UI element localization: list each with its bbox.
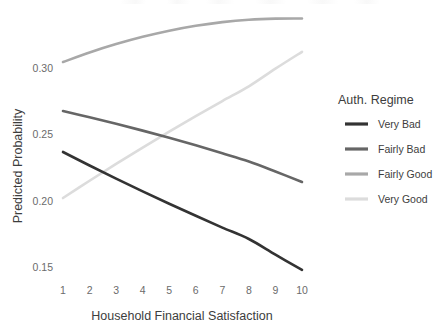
y-axis-tick-labels: 0.15 0.20 0.25 0.30 xyxy=(33,62,54,273)
x-tick-label: 6 xyxy=(193,284,199,296)
x-tick-label: 10 xyxy=(296,284,308,296)
y-tick-label: 0.15 xyxy=(33,261,54,273)
y-tick-label: 0.20 xyxy=(33,195,54,207)
series-line-very-good xyxy=(63,52,302,198)
x-tick-label: 8 xyxy=(246,284,252,296)
legend-label-fairly-good[interactable]: Fairly Good xyxy=(378,168,432,180)
x-tick-label: 2 xyxy=(87,284,93,296)
y-axis-title: Predicted Probability xyxy=(11,108,25,223)
legend-label-very-bad[interactable]: Very Bad xyxy=(378,118,421,130)
series-line-very-bad xyxy=(63,152,302,270)
legend-title: Auth. Regime xyxy=(338,93,414,107)
predicted-probability-line-chart: 0.15 0.20 0.25 0.30 Predicted Probabilit… xyxy=(0,0,440,327)
chart-container: 0.15 0.20 0.25 0.30 Predicted Probabilit… xyxy=(0,0,440,327)
x-tick-label: 5 xyxy=(166,284,172,296)
legend: Very BadFairly BadFairly GoodVery Good xyxy=(345,118,432,205)
x-axis-tick-labels: 12345678910 xyxy=(60,284,308,296)
legend-label-very-good[interactable]: Very Good xyxy=(378,193,428,205)
legend-label-fairly-bad[interactable]: Fairly Bad xyxy=(378,143,425,155)
x-tick-label: 3 xyxy=(113,284,119,296)
data-series-group xyxy=(63,19,302,270)
x-tick-label: 9 xyxy=(273,284,279,296)
x-axis-title: Household Financial Satisfaction xyxy=(91,309,272,323)
series-line-fairly-good xyxy=(63,19,302,63)
y-tick-label: 0.25 xyxy=(33,128,54,140)
y-tick-label: 0.30 xyxy=(33,62,54,74)
x-tick-label: 7 xyxy=(219,284,225,296)
x-tick-label: 1 xyxy=(60,284,66,296)
x-tick-label: 4 xyxy=(140,284,146,296)
